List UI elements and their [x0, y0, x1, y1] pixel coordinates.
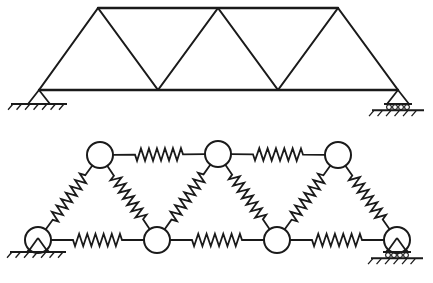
horizontal-spring-bot-2 — [170, 234, 264, 246]
mass-node — [264, 227, 290, 253]
diagonal-spring-diag-4 — [225, 165, 269, 230]
truss-right-roller-support-roller — [405, 105, 410, 110]
truss-panel — [8, 8, 424, 116]
horizontal-spring-top-1 — [113, 148, 205, 161]
spring-right-roller-support-roller — [404, 253, 409, 258]
truss-right-roller-support-roller — [387, 105, 392, 110]
truss-member-d6 — [338, 8, 398, 90]
mass-node — [384, 227, 410, 253]
diagonal-spring-diag-5 — [285, 166, 331, 230]
truss-right-roller-support-roller — [393, 105, 398, 110]
truss-right-roller-support-roller — [399, 105, 404, 110]
truss-left-pin-support — [8, 90, 67, 110]
spring-right-roller-support-ground-hatch — [368, 258, 373, 264]
truss-member-d5 — [278, 8, 338, 90]
mass-node — [205, 141, 231, 167]
horizontal-spring-top-2 — [231, 148, 325, 161]
truss-member-d1 — [39, 8, 98, 90]
horizontal-spring-bot-3 — [290, 234, 384, 246]
truss-left-pin-support-triangle — [28, 90, 50, 104]
diagonal-spring-diag-3 — [165, 165, 211, 230]
engineering-diagram — [0, 0, 433, 283]
mass-node — [87, 142, 113, 168]
truss-left-pin-support-ground-hatch — [8, 104, 13, 110]
truss-member-d2 — [98, 8, 158, 90]
diagram-canvas — [0, 0, 433, 283]
mass-node — [325, 142, 351, 168]
mass-node — [25, 227, 51, 253]
spring-model-panel — [7, 141, 423, 264]
truss-right-roller-support — [369, 90, 424, 116]
diagonal-spring-diag-2 — [107, 166, 150, 229]
diagonal-spring-diag-1 — [46, 166, 93, 230]
truss-right-roller-support-triangle — [387, 90, 409, 104]
spring-right-roller-support-roller — [386, 253, 391, 258]
horizontal-spring-bot-1 — [51, 234, 144, 246]
truss-member-d3 — [158, 8, 218, 90]
diagonal-spring-diag-6 — [345, 166, 389, 230]
truss-right-roller-support-ground-hatch — [369, 110, 374, 116]
mass-node — [144, 227, 170, 253]
spring-left-pin-support-ground-hatch — [7, 252, 12, 258]
truss-member-d4 — [218, 8, 278, 90]
